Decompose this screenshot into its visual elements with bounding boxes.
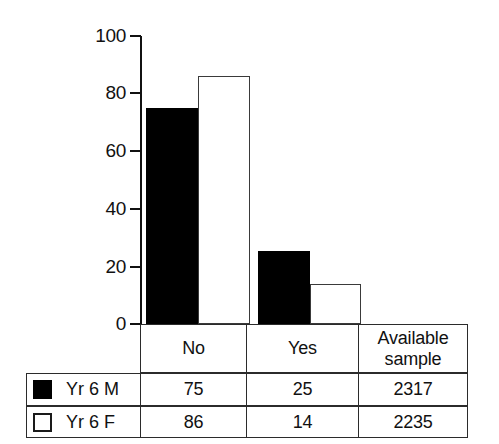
y-tick-label-20-wrap: 20 [74,257,126,276]
y-tick-label-60-wrap: 60 [74,141,126,160]
bar-no-yr6f [198,76,250,324]
plot-area: 100 80 60 40 20 0 [0,0,499,330]
black-filled-square-icon [33,380,52,399]
table-value-yr6f-yes: 14 [293,412,313,433]
y-tick-80 [130,92,141,94]
table-row: Yr 6 F [26,406,141,438]
table-header-yes: Yes [246,324,359,373]
table-value-yr6m-available-sample: 2317 [393,379,432,400]
bar-chart-figure: 100 80 60 40 20 0 No [0,0,499,444]
table-header-yes-label: Yes [288,338,317,359]
y-tick-60 [130,150,141,152]
legend-label-yr6f: Yr 6 F [66,412,115,433]
y-tick-label-60: 60 [80,141,126,160]
table-value-yr6m-yes: 25 [293,379,313,400]
legend-label-yr6m: Yr 6 M [66,379,119,400]
y-tick-label-0: 0 [80,314,126,333]
y-tick-20 [130,266,141,268]
table-value-yr6f-available-sample: 2235 [393,412,432,433]
table-cell-yr6f-yes: 14 [246,406,359,438]
y-tick-label-100-wrap: 100 [74,26,126,45]
table-cell-yr6f-available-sample: 2235 [358,406,468,438]
y-tick-40 [130,208,141,210]
bar-yes-yr6m [258,251,310,324]
white-outline-square-icon [33,413,52,432]
y-tick-label-80-wrap: 80 [74,83,126,102]
table-cell-yr6m-no: 75 [140,373,247,406]
y-tick-label-0-wrap: 0 [74,314,126,333]
table-header-no-label: No [182,338,205,359]
y-tick-label-40: 40 [80,199,126,218]
y-tick-label-80: 80 [80,83,126,102]
y-tick-label-100: 100 [80,26,126,45]
y-tick-label-40-wrap: 40 [74,199,126,218]
table-header-available-line1: Available [378,328,449,349]
bar-no-yr6m [146,108,198,324]
table-value-yr6f-no: 86 [184,412,204,433]
y-tick-100 [130,35,141,37]
table-cell-yr6m-yes: 25 [246,373,359,406]
table-header-available-sample: Available sample [358,324,468,373]
table-value-yr6m-no: 75 [184,379,204,400]
table-row: Yr 6 M [26,373,141,406]
table-header-no: No [140,324,247,373]
y-tick-label-20: 20 [80,257,126,276]
bar-yes-yr6f [310,284,361,324]
table-header-available-line2: sample [385,349,442,370]
table-cell-yr6f-no: 86 [140,406,247,438]
table-cell-yr6m-available-sample: 2317 [358,373,468,406]
y-axis-line [140,36,142,324]
